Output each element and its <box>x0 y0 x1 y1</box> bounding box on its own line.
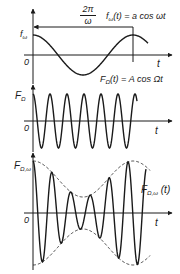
panel3-curve-label: FΩ,ω (t) <box>141 185 170 196</box>
period-denominator: ω <box>80 16 96 26</box>
panel1-y-label: fω <box>20 30 27 40</box>
diagram-canvas <box>0 0 180 274</box>
panel3-axes <box>24 153 172 270</box>
panel3-origin-label: 0 <box>24 216 29 225</box>
panel2-x-label: t <box>155 126 158 136</box>
panel2-origin-label: 0 <box>24 124 29 133</box>
panel2-y-label: FΩ <box>15 91 26 102</box>
panel1-equation: fω(t) = a cos ωt <box>106 12 165 22</box>
panel3-lower-envelope <box>33 229 150 265</box>
panel2-equation: FΩ(t) = A cos Ωt <box>100 75 163 85</box>
period-numerator: 2π <box>80 5 96 16</box>
panel1-origin-label: 0 <box>24 58 29 67</box>
panel3-x-label: t <box>155 218 158 228</box>
panel1-x-label: t <box>157 59 160 69</box>
panel1-period-label: 2π ω <box>80 5 96 26</box>
panel3-y-label: FΩ,ω <box>14 161 31 172</box>
